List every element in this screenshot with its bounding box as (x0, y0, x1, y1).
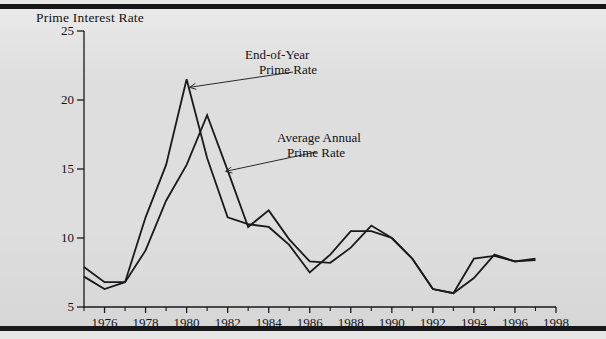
x-tick-label-1996: 1996 (492, 315, 538, 331)
x-tick-label-1980: 1980 (164, 315, 210, 331)
annotation-end-of-year-line2: Prime Rate (245, 62, 317, 77)
y-tick-label-5: 5 (44, 299, 74, 315)
figure-container: Prime Interest Rate 252015105 1976197819… (0, 0, 606, 339)
x-tick-label-1986: 1986 (287, 315, 333, 331)
annotation-average-annual-line2: Prime Rate (277, 145, 361, 160)
annotation-average-annual: Average Annual Prime Rate (277, 130, 361, 161)
annotation-end-of-year-line1: End-of-Year (245, 47, 309, 62)
x-tick-label-1990: 1990 (369, 315, 415, 331)
y-tick-label-20: 20 (44, 92, 74, 108)
annotation-average-annual-line1: Average Annual (277, 130, 361, 145)
annotation-end-of-year: End-of-Year Prime Rate (245, 47, 317, 78)
y-tick-label-25: 25 (44, 23, 74, 39)
y-tick-label-15: 15 (44, 161, 74, 177)
x-tick-label-1982: 1982 (205, 315, 251, 331)
x-tick-label-1992: 1992 (410, 315, 456, 331)
x-tick-label-1976: 1976 (82, 315, 128, 331)
y-tick-label-10: 10 (44, 230, 74, 246)
x-tick-label-1998: 1998 (533, 315, 579, 331)
x-tick-label-1978: 1978 (123, 315, 169, 331)
x-tick-label-1994: 1994 (451, 315, 497, 331)
x-tick-label-1984: 1984 (246, 315, 292, 331)
x-tick-label-1988: 1988 (328, 315, 374, 331)
